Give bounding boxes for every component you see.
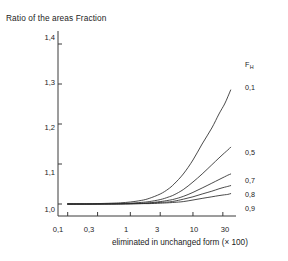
- curve-label-1: 0,5: [245, 148, 255, 157]
- y-tick-label: 1,3: [33, 78, 55, 87]
- chart-figure: Ratio of the areas Fraction eliminated i…: [0, 0, 288, 261]
- chart-title: Ratio of the areas Fraction: [6, 13, 106, 23]
- series-parameter-sub: H: [250, 64, 254, 70]
- y-tick-label: 1,0: [33, 205, 55, 214]
- series-parameter-symbol: FH: [245, 60, 253, 69]
- x-tick-label: 30: [213, 225, 237, 234]
- x-axis-label: eliminated in unchanged form (× 100): [112, 238, 248, 247]
- curve-label-0: 0,1: [245, 83, 255, 92]
- x-tick-label: 0,1: [46, 225, 70, 234]
- y-tick-label: 1,1: [33, 168, 55, 177]
- y-tick-label: 1,2: [33, 123, 55, 132]
- x-tick-label: 1: [114, 225, 138, 234]
- y-tick-label: 1,4: [33, 33, 55, 42]
- series-parameter-letter: F: [245, 60, 249, 69]
- curve-label-3: 0,8: [245, 190, 255, 199]
- x-tick-label: 3: [145, 225, 169, 234]
- curve-label-4: 0,9: [245, 204, 255, 213]
- x-tick-label: 0,3: [77, 225, 101, 234]
- curve-label-2: 0,7: [245, 176, 255, 185]
- x-tick-label: 10: [182, 225, 206, 234]
